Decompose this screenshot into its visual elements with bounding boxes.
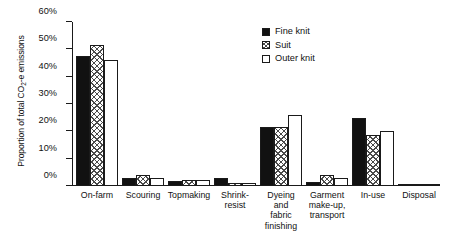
plot-area: 0%10%20%30%40%50%60% xyxy=(72,22,440,186)
bar xyxy=(412,184,426,186)
y-axis-tick xyxy=(66,48,72,49)
bar xyxy=(214,178,228,186)
bar xyxy=(168,181,182,186)
x-axis-category-label-line: make-up, xyxy=(295,200,359,210)
bar xyxy=(242,183,256,186)
bar xyxy=(426,184,440,186)
bar xyxy=(288,115,302,186)
legend-item: Fine knit xyxy=(262,25,315,39)
bar xyxy=(380,131,394,186)
x-axis-category-label-line: finishing xyxy=(249,221,313,231)
legend-item: Outer knit xyxy=(262,52,315,66)
y-axis-tick-label: 20% xyxy=(17,115,57,125)
legend-item-label: Fine knit xyxy=(275,25,310,39)
legend-item-label: Outer knit xyxy=(275,52,315,66)
y-axis-tick xyxy=(66,21,72,22)
y-axis-line xyxy=(72,22,73,186)
legend-swatch-icon xyxy=(262,41,270,49)
bar xyxy=(228,183,242,186)
bar xyxy=(352,118,366,186)
bar xyxy=(182,180,196,186)
y-axis-title-subscript: 2 xyxy=(20,82,27,85)
y-axis-tick-label: 0% xyxy=(17,170,57,180)
bar xyxy=(104,60,118,186)
y-axis-tick xyxy=(66,103,72,104)
y-axis-tick xyxy=(66,130,72,131)
bar xyxy=(76,56,90,186)
legend-swatch-icon xyxy=(262,55,270,63)
y-axis-tick xyxy=(66,185,72,186)
bar xyxy=(150,178,164,186)
x-axis-category-label-line: transport xyxy=(295,210,359,220)
bar xyxy=(320,175,334,186)
chart-legend: Fine knitSuitOuter knit xyxy=(262,25,315,66)
bar xyxy=(306,182,320,186)
bar xyxy=(90,45,104,186)
bar xyxy=(334,178,348,186)
bar xyxy=(398,184,412,186)
y-axis-tick-label: 50% xyxy=(17,33,57,43)
bar xyxy=(196,180,210,186)
y-axis-tick xyxy=(66,76,72,77)
bar-chart: Proportion of total CO2-e emissions 0%10… xyxy=(0,0,450,247)
x-axis-category-label: Disposal xyxy=(387,190,450,200)
bar xyxy=(122,178,136,186)
bar xyxy=(366,135,380,186)
y-axis-tick xyxy=(66,158,72,159)
legend-item: Suit xyxy=(262,39,315,53)
bar xyxy=(260,127,274,186)
y-axis-tick-label: 30% xyxy=(17,88,57,98)
y-axis-tick-label: 10% xyxy=(17,143,57,153)
y-axis-tick-label: 40% xyxy=(17,61,57,71)
x-axis-category-label-line: Disposal xyxy=(387,190,450,200)
legend-swatch-icon xyxy=(262,28,270,36)
bar xyxy=(274,127,288,186)
legend-item-label: Suit xyxy=(275,39,291,53)
y-axis-tick-label: 60% xyxy=(17,6,57,16)
bar xyxy=(136,175,150,186)
